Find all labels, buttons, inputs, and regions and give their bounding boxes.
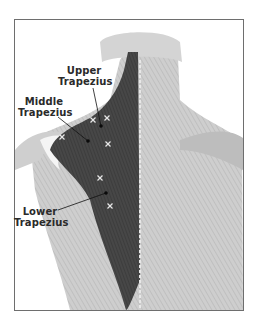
label-upper-line1: Upper [58, 65, 110, 76]
label-middle-trapezius: Middle Trapezius [18, 96, 70, 118]
label-upper-line2: Trapezius [58, 76, 110, 87]
anatomy-illustration [0, 0, 256, 328]
label-lower-trapezius: Lower Trapezius [14, 206, 66, 228]
label-upper-trapezius: Upper Trapezius [58, 65, 110, 87]
label-lower-line1: Lower [14, 206, 66, 217]
label-lower-line2: Trapezius [14, 217, 66, 228]
leader-dot-lower [104, 191, 108, 195]
leader-dot-upper [99, 124, 103, 128]
label-middle-line2: Trapezius [18, 107, 70, 118]
leader-dot-middle [86, 139, 90, 143]
label-middle-line1: Middle [18, 96, 70, 107]
